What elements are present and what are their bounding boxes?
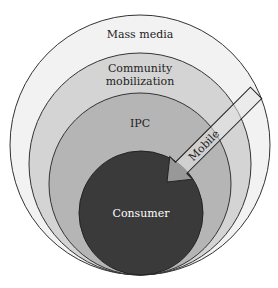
ipc-label: IPC: [130, 117, 150, 130]
community-mobilization-label-line1: Community: [108, 62, 173, 75]
mass-media-label: Mass media: [107, 28, 174, 41]
consumer-label: Consumer: [112, 207, 170, 220]
nested-circles-diagram: Mobile Mass media Community mobilization…: [0, 0, 278, 288]
community-mobilization-label-line2: mobilization: [106, 75, 175, 88]
